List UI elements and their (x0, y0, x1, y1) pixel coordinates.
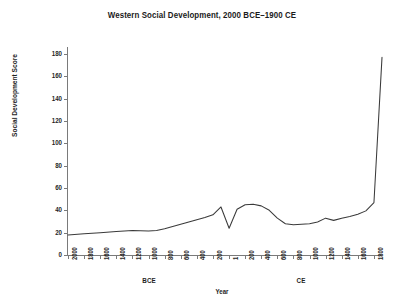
y-tick-mark (64, 76, 67, 77)
x-tick-label: 1000 (312, 247, 319, 260)
x-tick-label: 200 (216, 250, 223, 260)
x-tick-label: 800 (296, 250, 303, 260)
y-tick-mark (64, 210, 67, 211)
y-tick-label: 20 (39, 229, 62, 236)
x-tick-label: 1400 (119, 247, 126, 260)
x-tick-mark (277, 256, 278, 259)
x-tick-mark (245, 256, 246, 259)
era-label: CE (297, 277, 306, 284)
y-tick-label: 40 (39, 206, 62, 213)
x-tick-label: 1000 (151, 247, 158, 260)
x-tick-mark (149, 256, 150, 259)
x-tick-label: 600 (183, 250, 190, 260)
x-tick-mark (358, 256, 359, 259)
x-tick-mark (326, 256, 327, 259)
y-tick-mark (64, 99, 67, 100)
y-tick-label: 100 (39, 139, 62, 146)
y-tick-label: 180 (39, 50, 62, 57)
x-axis-title: Year (216, 288, 229, 295)
x-tick-label: 1200 (328, 247, 335, 260)
x-tick-label: 1600 (103, 247, 110, 260)
x-tick-label: 400 (264, 250, 271, 260)
x-tick-mark (181, 256, 182, 259)
x-tick-label: 200 (248, 250, 255, 260)
y-tick-mark (64, 166, 67, 167)
y-tick-mark (64, 233, 67, 234)
y-tick-label: 160 (39, 72, 62, 79)
y-tick-mark (64, 143, 67, 144)
y-tick-label: 60 (39, 184, 62, 191)
x-tick-label: 2000 (71, 247, 78, 260)
x-tick-label: 400 (199, 250, 206, 260)
x-tick-mark (165, 256, 166, 259)
x-tick-mark (132, 256, 133, 259)
x-tick-label: 1200 (135, 247, 142, 260)
y-tick-mark (64, 188, 67, 189)
x-tick-mark (116, 256, 117, 259)
y-axis-title: Social Development Score (11, 36, 18, 156)
x-tick-label: 800 (167, 250, 174, 260)
y-axis-spine (67, 47, 68, 256)
y-tick-mark (64, 121, 67, 122)
x-tick-mark (293, 256, 294, 259)
x-tick-mark (213, 256, 214, 259)
x-tick-label: 1400 (344, 247, 351, 260)
x-tick-label: 1800 (377, 247, 384, 260)
x-tick-label: 1800 (87, 247, 94, 260)
x-tick-mark (310, 256, 311, 259)
x-tick-label: 600 (280, 250, 287, 260)
y-tick-label: 120 (39, 117, 62, 124)
y-tick-label: 0 (39, 251, 62, 258)
y-tick-label: 80 (39, 162, 62, 169)
x-tick-label: 1600 (360, 247, 367, 260)
era-label: BCE (142, 277, 155, 284)
x-tick-mark (68, 256, 69, 259)
x-tick-mark (261, 256, 262, 259)
x-tick-label: 1 (232, 257, 239, 260)
x-tick-mark (374, 256, 375, 259)
x-tick-mark (197, 256, 198, 259)
x-tick-mark (342, 256, 343, 259)
y-tick-mark (64, 54, 67, 55)
y-tick-mark (64, 255, 67, 256)
x-tick-mark (100, 256, 101, 259)
x-tick-mark (229, 256, 230, 259)
chart-figure: Western Social Development, 2000 BCE–190… (0, 0, 404, 299)
y-tick-label: 140 (39, 95, 62, 102)
chart-title: Western Social Development, 2000 BCE–190… (16, 10, 388, 20)
x-tick-mark (84, 256, 85, 259)
